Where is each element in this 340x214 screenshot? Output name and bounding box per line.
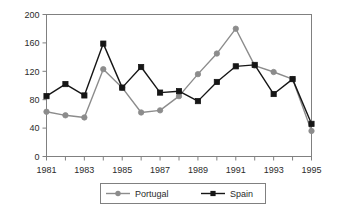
data-point-marker xyxy=(290,77,295,82)
line-chart: 04080120160200 1981198319851987198919911… xyxy=(0,0,340,214)
data-point-marker xyxy=(157,90,162,95)
legend-marker-square-icon xyxy=(210,191,215,196)
data-point-marker xyxy=(82,93,87,98)
data-point-marker xyxy=(176,89,181,94)
data-point-marker xyxy=(214,79,219,84)
data-point-marker xyxy=(63,113,68,118)
data-point-marker xyxy=(138,110,143,115)
x-axis-tick-label: 1983 xyxy=(74,165,94,175)
data-point-marker xyxy=(309,121,314,126)
x-axis-tick-label: 1985 xyxy=(112,165,132,175)
data-point-marker xyxy=(139,64,144,69)
data-point-marker xyxy=(195,71,200,76)
data-point-marker xyxy=(214,51,219,56)
x-axis-tick-label: 1995 xyxy=(301,165,321,175)
legend-label-spain: Spain xyxy=(230,189,253,199)
x-axis-tick-label: 1989 xyxy=(188,165,208,175)
data-point-marker xyxy=(252,62,257,67)
data-point-marker xyxy=(44,94,49,99)
data-point-marker xyxy=(82,115,87,120)
y-axis-tick-label: 120 xyxy=(24,67,39,77)
data-point-marker xyxy=(233,26,238,31)
legend-label-portugal: Portugal xyxy=(135,189,169,199)
x-axis-tick-label: 1987 xyxy=(150,165,170,175)
data-point-marker xyxy=(120,85,125,90)
data-point-marker xyxy=(233,64,238,69)
y-axis-tick-label: 0 xyxy=(34,152,39,162)
y-axis-tick-label: 80 xyxy=(29,95,39,105)
x-axis-tick-label: 1981 xyxy=(36,165,56,175)
x-axis-tick-label: 1991 xyxy=(226,165,246,175)
data-point-marker xyxy=(44,109,49,114)
data-point-marker xyxy=(271,91,276,96)
y-axis-tick-label: 40 xyxy=(29,123,39,133)
data-point-marker xyxy=(63,81,68,86)
data-point-marker xyxy=(157,108,162,113)
y-axis-tick-label: 200 xyxy=(24,10,39,20)
data-point-marker xyxy=(309,128,314,133)
y-axis-tick-label: 160 xyxy=(24,38,39,48)
data-point-marker xyxy=(101,41,106,46)
x-axis-tick-label: 1993 xyxy=(264,165,284,175)
data-point-marker xyxy=(101,66,106,71)
legend-marker-circle-icon xyxy=(115,191,120,196)
data-point-marker xyxy=(176,93,181,98)
data-point-marker xyxy=(195,99,200,104)
chart-background xyxy=(0,0,340,214)
data-point-marker xyxy=(271,69,276,74)
